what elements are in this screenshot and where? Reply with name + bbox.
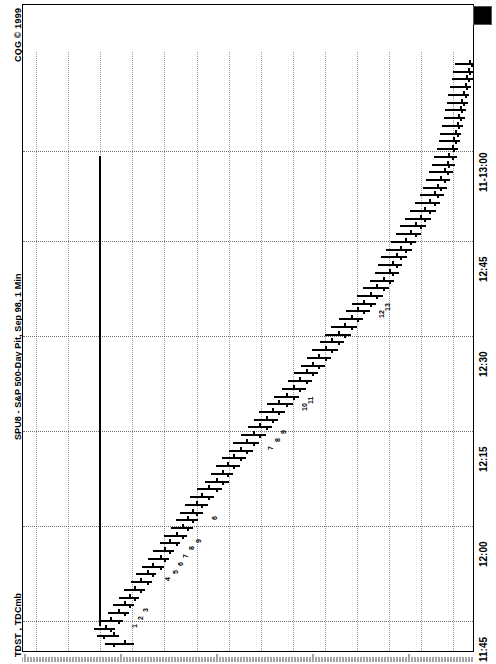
ohlc-bar: [97, 633, 119, 640]
ohlc-bar: [160, 540, 181, 547]
ohlc-bar: [410, 208, 436, 215]
bar-close-tick: [463, 103, 465, 106]
bar-open-tick: [458, 114, 460, 117]
ohlc-bar: [437, 146, 458, 153]
bar-range: [391, 241, 417, 243]
bar-close-tick: [437, 195, 439, 198]
ohlc-bar: [274, 394, 300, 401]
bar-range: [339, 318, 363, 320]
bar-open-tick: [110, 617, 112, 620]
td-count-label: 12: [378, 311, 385, 319]
ohlc-bar: [119, 595, 138, 602]
bar-range: [216, 465, 240, 467]
ohlc-bar: [331, 324, 357, 331]
bar-close-tick: [420, 226, 422, 229]
ohlc-bar: [396, 231, 422, 238]
td-count-label: 4: [164, 577, 171, 581]
bar-open-tick: [113, 632, 115, 635]
bar-open-tick: [140, 578, 142, 581]
ohlc-bar: [185, 502, 207, 509]
bar-open-tick: [447, 161, 449, 164]
bar-range: [405, 218, 431, 220]
ohlc-bar: [222, 455, 246, 462]
bar-close-tick: [455, 141, 457, 144]
bar-range: [211, 473, 233, 475]
bar-close-tick: [400, 257, 402, 260]
ohlc-bar: [171, 525, 193, 532]
ohlc-bar: [254, 417, 278, 424]
bar-open-tick: [233, 454, 235, 457]
price-gridline: [293, 52, 294, 651]
bar-open-tick: [318, 354, 320, 357]
ohlc-bar: [142, 564, 164, 571]
bar-range: [288, 380, 312, 382]
bar-range: [205, 481, 229, 483]
time-axis-label: 12:30: [478, 351, 489, 377]
bar-open-tick: [152, 563, 154, 566]
ohlc-bar: [312, 347, 338, 354]
bar-close-tick: [208, 497, 210, 500]
bar-open-tick: [405, 238, 407, 241]
bar-close-tick: [453, 149, 455, 152]
bar-range: [410, 210, 436, 212]
bar-open-tick: [147, 570, 149, 573]
bar-open-tick: [196, 501, 198, 504]
ohlc-bar: [164, 533, 186, 540]
bar-open-tick: [286, 393, 288, 396]
td-count-label: 3: [142, 608, 149, 612]
bar-close-tick: [461, 110, 463, 113]
bar-close-tick: [306, 381, 308, 384]
bar-close-tick: [134, 598, 136, 601]
bar-close-tick: [457, 134, 459, 137]
bar-open-tick: [222, 470, 224, 473]
bar-open-tick: [124, 601, 126, 604]
bar-range: [426, 179, 450, 181]
bar-close-tick: [344, 335, 346, 338]
td-count-label: 9: [280, 431, 287, 435]
bar-open-tick: [440, 176, 442, 179]
bar-open-tick: [453, 137, 455, 140]
close-icon[interactable]: [473, 6, 492, 25]
ohlc-bar: [440, 131, 461, 138]
bar-open-tick: [208, 485, 210, 488]
bar-close-tick: [429, 211, 431, 214]
tdst-support-line: [99, 156, 101, 626]
bar-range: [375, 272, 399, 274]
bar-close-tick: [129, 605, 131, 608]
bar-open-tick: [306, 369, 308, 372]
bar-range: [171, 527, 193, 529]
bar-close-tick: [278, 412, 280, 415]
ohlc-bar: [434, 154, 456, 161]
td-count-label: 6: [211, 516, 218, 520]
ohlc-bar: [131, 579, 152, 586]
chart-window: CQG © 1999 SPU8 - S&P 500-Day Pit, Sep 9…: [0, 0, 496, 664]
bar-open-tick: [469, 60, 471, 63]
bar-open-tick: [124, 640, 126, 643]
bar-range: [357, 295, 383, 297]
bar-close-tick: [434, 203, 436, 206]
bar-open-tick: [351, 315, 353, 318]
ohlc-bar: [124, 587, 145, 594]
bar-open-tick: [240, 447, 242, 450]
bar-open-tick: [129, 594, 131, 597]
bar-open-tick: [376, 284, 378, 287]
bar-open-tick: [389, 269, 391, 272]
bar-open-tick: [338, 331, 340, 334]
ohlc-bar: [233, 440, 259, 447]
ohlc-bar: [320, 339, 344, 346]
bar-close-tick: [246, 451, 248, 454]
bar-close-tick: [164, 559, 166, 562]
bar-range: [320, 341, 344, 343]
bar-range: [386, 249, 412, 251]
bar-open-tick: [259, 423, 261, 426]
ohlc-bar: [105, 641, 134, 648]
bar-close-tick: [169, 551, 171, 554]
price-gridline: [421, 52, 422, 651]
ohlc-bar: [282, 386, 306, 393]
plot-area[interactable]: 123456789678910111213: [22, 4, 474, 652]
bar-range: [267, 403, 293, 405]
bar-close-tick: [351, 327, 353, 330]
price-gridline: [357, 52, 358, 651]
bar-open-tick: [187, 516, 189, 519]
bar-open-tick: [370, 292, 372, 295]
